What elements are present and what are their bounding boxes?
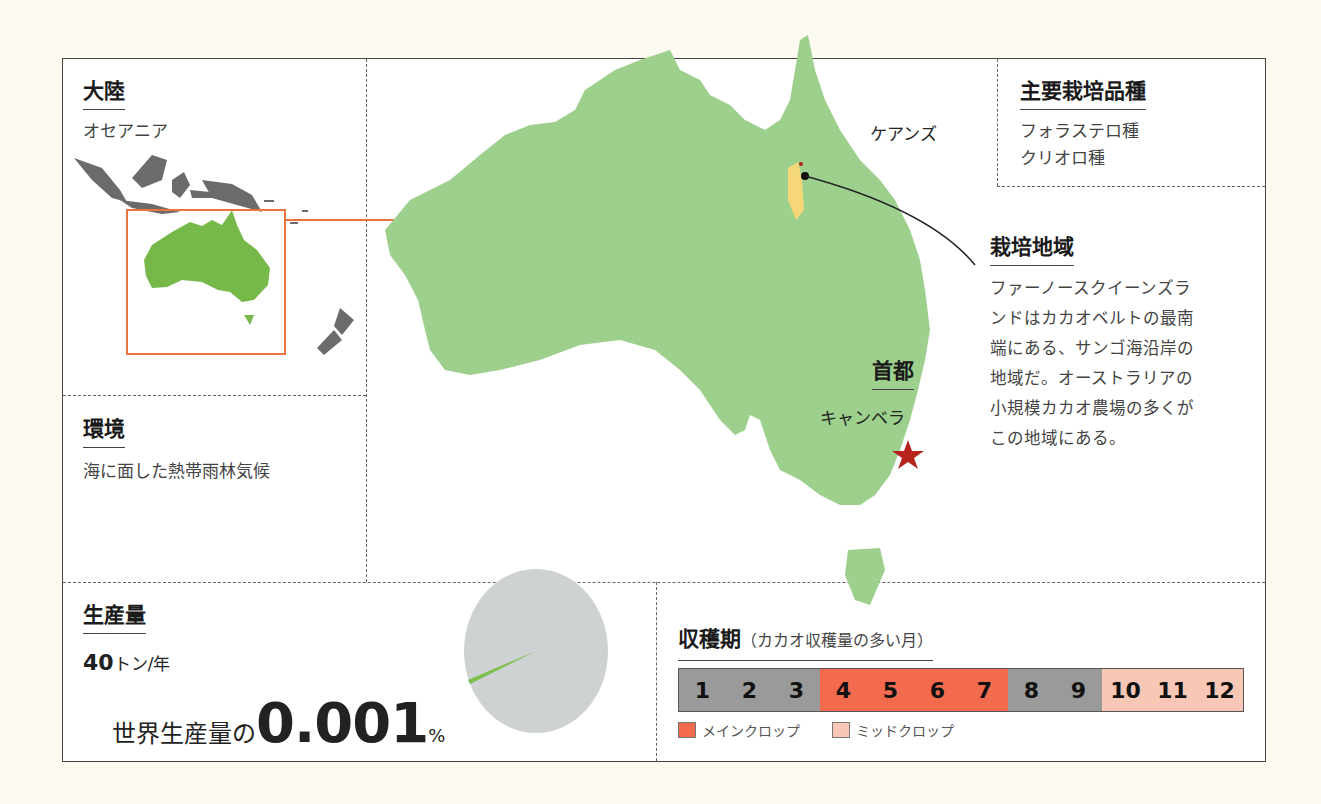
environment-value: 海に面した熱帯雨林気候 (83, 458, 270, 484)
world-share-pie (464, 566, 608, 736)
capital-title: 首都 (872, 358, 914, 390)
divider (997, 186, 1265, 187)
production-title: 生産量 (83, 602, 146, 634)
month-cell: 9 (1055, 669, 1102, 711)
variety-item: フォラステロ種 (1020, 118, 1139, 144)
mid-crop-swatch (832, 722, 850, 738)
capital-value: キャンベラ (820, 404, 905, 429)
harvest-subtitle: （カカオ収穫量の多い月） (741, 631, 933, 650)
legend-mid-crop: ミッドクロップ (832, 720, 954, 740)
varieties-title: 主要栽培品種 (1020, 78, 1146, 110)
divider (63, 395, 366, 396)
harvest-month-bar: 1 2 3 4 5 6 7 8 9 10 11 12 (678, 668, 1244, 712)
continent-title: 大陸 (83, 78, 125, 110)
continent-value: オセアニア (83, 118, 168, 144)
month-cell: 8 (1008, 669, 1055, 711)
divider (997, 59, 998, 186)
world-share: 世界生産量の0.001% (112, 690, 445, 755)
month-cell: 2 (726, 669, 773, 711)
month-cell: 6 (914, 669, 961, 711)
month-cell: 5 (867, 669, 914, 711)
month-cell: 3 (773, 669, 820, 711)
month-cell: 12 (1196, 669, 1243, 711)
harvest-header: 収穫期（カカオ収穫量の多い月） (678, 622, 933, 661)
month-cell: 4 (820, 669, 867, 711)
month-cell: 7 (961, 669, 1008, 711)
australia-map (370, 30, 980, 620)
harvest-title: 収穫期 (678, 626, 741, 651)
month-cell: 1 (679, 669, 726, 711)
variety-item: クリオロ種 (1020, 145, 1105, 171)
production-amount: 40トン/年 (83, 650, 170, 675)
region-title: 栽培地域 (990, 234, 1074, 266)
main-crop-swatch (678, 722, 696, 738)
legend-main-crop: メインクロップ (678, 720, 800, 740)
cairns-label: ケアンズ (870, 120, 937, 145)
region-description: ファーノースクイーンズラ ンドはカカオベルトの最南 端にある、サンゴ海沿岸の 地… (990, 274, 1194, 454)
month-cell: 10 (1102, 669, 1149, 711)
month-cell: 11 (1149, 669, 1196, 711)
oceania-inset-map (72, 150, 372, 370)
environment-title: 環境 (83, 416, 125, 448)
